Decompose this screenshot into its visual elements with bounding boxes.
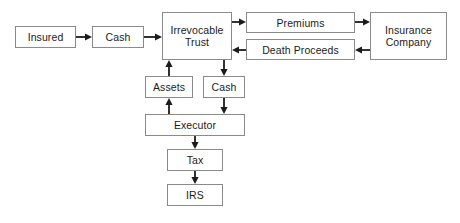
arrowhead-icon — [363, 18, 370, 25]
node-label: Irrevocable Trust — [170, 24, 223, 48]
node-insurance_company: Insurance Company — [370, 12, 447, 60]
node-death_proceeds: Death Proceeds — [246, 39, 355, 60]
node-label: Insurance Company — [385, 24, 432, 48]
edge-trust-to-premiums — [232, 18, 246, 25]
node-irs: IRS — [167, 184, 223, 206]
arrowhead-icon — [191, 142, 198, 149]
node-insured: Insured — [15, 26, 76, 48]
node-label: Tax — [187, 154, 204, 166]
node-cash_top: Cash — [92, 26, 144, 48]
node-executor: Executor — [145, 114, 245, 136]
node-assets: Assets — [145, 76, 193, 98]
node-tax: Tax — [167, 149, 223, 171]
arrowhead-icon — [85, 33, 92, 40]
node-irrevocable_trust: Irrevocable Trust — [162, 12, 232, 60]
edge-cash-mid-to-executor — [220, 98, 227, 114]
node-cash_mid: Cash — [203, 76, 245, 98]
node-label: Insured — [28, 31, 64, 43]
edge-executor-to-tax — [191, 136, 198, 149]
node-label: Death Proceeds — [262, 44, 339, 56]
node-label: IRS — [186, 189, 204, 201]
node-premiums: Premiums — [246, 12, 355, 33]
node-label: Cash — [106, 31, 131, 43]
edge-insurance-to-death-proceeds — [355, 46, 370, 53]
arrowhead-icon — [220, 107, 227, 114]
arrowhead-icon — [165, 60, 172, 67]
edge-trust-to-cash-mid — [220, 60, 227, 76]
edge-death-proceeds-to-trust — [232, 46, 246, 53]
arrowhead-icon — [220, 69, 227, 76]
arrowhead-icon — [355, 46, 362, 53]
edge-insured-to-cash — [76, 33, 92, 40]
edge-cash-to-trust — [144, 33, 162, 40]
edge-premiums-to-insurance — [355, 18, 370, 25]
edge-tax-to-irs — [191, 171, 198, 184]
node-label: Cash — [212, 81, 237, 93]
edge-assets-to-trust — [165, 60, 172, 76]
flowchart-canvas: InsuredCashIrrevocable TrustPremiumsDeat… — [0, 0, 460, 223]
arrowhead-icon — [232, 46, 239, 53]
arrowhead-icon — [239, 18, 246, 25]
arrowhead-icon — [155, 33, 162, 40]
arrowhead-icon — [191, 177, 198, 184]
node-label: Premiums — [276, 17, 324, 29]
arrowhead-icon — [165, 98, 172, 105]
node-label: Assets — [153, 81, 185, 93]
node-label: Executor — [174, 119, 216, 131]
edge-executor-to-assets — [165, 98, 172, 114]
